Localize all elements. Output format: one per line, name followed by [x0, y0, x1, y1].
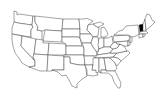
state-colorado[interactable] — [48, 43, 66, 55]
state-north-dakota[interactable] — [62, 19, 80, 29]
state-maine[interactable] — [145, 14, 155, 30]
state-south-dakota[interactable] — [62, 29, 80, 38]
state-rhode-island[interactable] — [143, 34, 145, 37]
state-new-york[interactable] — [114, 25, 139, 37]
us-map — [0, 0, 168, 97]
state-kansas[interactable] — [66, 46, 84, 55]
state-new-mexico[interactable] — [47, 55, 64, 71]
state-montana[interactable] — [35, 16, 63, 31]
state-connecticut[interactable] — [139, 34, 143, 38]
state-iowa[interactable] — [80, 34, 93, 43]
state-wyoming[interactable] — [43, 30, 62, 42]
state-vermont[interactable] — [139, 24, 143, 32]
state-florida[interactable] — [101, 70, 121, 88]
state-delaware[interactable] — [128, 41, 130, 46]
